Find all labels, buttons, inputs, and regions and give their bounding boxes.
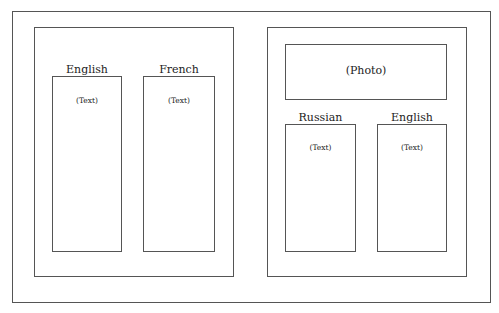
left-col1-heading: English bbox=[52, 64, 122, 76]
right-col1-heading: Russian bbox=[285, 112, 356, 124]
left-col1-text: (Text) bbox=[52, 96, 122, 105]
right-col2-text: (Text) bbox=[377, 143, 447, 152]
photo-placeholder: (Photo) bbox=[285, 65, 447, 77]
left-col2-heading: French bbox=[143, 64, 215, 76]
left-col2-text: (Text) bbox=[143, 96, 215, 105]
right-col2-heading: English bbox=[377, 112, 447, 124]
right-col1-text: (Text) bbox=[285, 143, 356, 152]
